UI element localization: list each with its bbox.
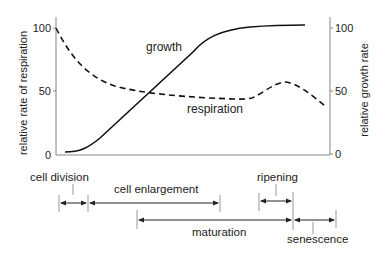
tick-right-50: 50 [335, 85, 347, 97]
respiration-curve [56, 28, 325, 106]
respiration-label: respiration [187, 102, 243, 116]
fruit-development-diagram: 100 50 0 100 50 0 relative rate of respi… [0, 0, 387, 259]
phase-cell-division: cell division [30, 171, 89, 183]
phase-ripening: ripening [257, 171, 298, 183]
phase-maturation: maturation [192, 226, 246, 238]
phase-senescence: senescence [287, 233, 348, 245]
phase-cell-enlargement: cell enlargement [114, 183, 199, 195]
growth-label: growth [146, 40, 182, 54]
left-axis [53, 17, 56, 155]
right-axis [330, 17, 333, 155]
tick-left-100: 100 [33, 22, 51, 34]
tick-right-0: 0 [335, 148, 341, 160]
y-axis-left-title: relative rate of respiration [17, 31, 29, 155]
y-axis-right-title: relative growth rate [358, 43, 370, 137]
tick-left-0: 0 [45, 149, 51, 161]
tick-right-100: 100 [335, 22, 353, 34]
tick-left-50: 50 [39, 85, 51, 97]
